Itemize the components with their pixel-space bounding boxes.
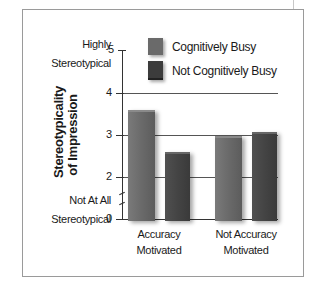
y-axis-title: Stereotypicality of Impression	[52, 92, 100, 178]
tick-label-0: 0	[102, 212, 112, 224]
anchor-bottom-label-1: Not At All	[40, 194, 111, 207]
tick-label-5: 5	[104, 43, 114, 55]
legend-label-cognitively-busy: Cognitively Busy	[172, 41, 256, 54]
tick-2	[116, 177, 124, 178]
tick-label-3: 3	[102, 128, 112, 140]
legend-label-not-cognitively-busy: Not Cognitively Busy	[172, 65, 277, 78]
y-axis-title-line2: of Impression	[66, 92, 80, 178]
bar-not-accuracy-busy	[215, 136, 242, 221]
legend-swatch-cognitively-busy	[148, 38, 163, 55]
category-label-line1: Not Accuracy	[201, 226, 291, 242]
category-label-line2: Motivated	[114, 242, 204, 258]
tick-5	[118, 50, 126, 51]
bar-accuracy-not-busy	[165, 152, 190, 221]
anchor-bottom-label-2: Stereotypical	[30, 213, 111, 226]
tick-3	[116, 135, 124, 136]
gridline-4	[122, 93, 278, 94]
bar-not-accuracy-not-busy	[252, 132, 277, 221]
anchor-top-label-2: Stereotypical	[40, 57, 111, 70]
legend-swatch-not-cognitively-busy	[148, 61, 163, 80]
tick-4	[116, 93, 124, 94]
tick-label-4: 4	[102, 86, 112, 98]
tick-label-2: 2	[102, 170, 112, 182]
bar-accuracy-busy	[128, 110, 155, 221]
category-label-line1: Accuracy	[114, 226, 204, 242]
category-label-line2: Motivated	[201, 242, 291, 258]
category-label-accuracy-motivated: Accuracy Motivated	[114, 226, 204, 258]
y-axis-title-line1: Stereotypicality	[52, 92, 66, 178]
category-label-not-accuracy-motivated: Not Accuracy Motivated	[201, 226, 291, 258]
